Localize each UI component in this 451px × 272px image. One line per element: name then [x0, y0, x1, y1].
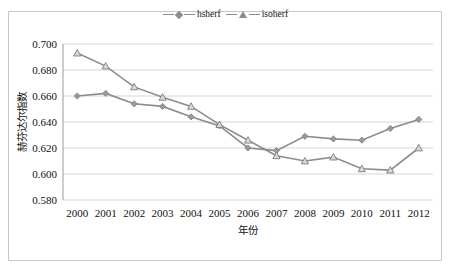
- x-axis-tick-label: 2006: [237, 207, 260, 219]
- x-axis-title: 年份: [238, 224, 259, 236]
- x-axis-tick-labels: 2000200120022003200420052006200720082009…: [66, 207, 430, 219]
- x-axis-tick-label: 2012: [408, 207, 430, 219]
- data-point-hsherf[interactable]: [330, 136, 336, 142]
- y-axis-tick-label: 0.580: [32, 194, 57, 206]
- x-axis-tick-label: 2011: [380, 207, 402, 219]
- x-axis-tick-label: 2009: [322, 207, 345, 219]
- plot-area: 0.7000.6800.6600.6400.6200.6000.580 2000…: [0, 0, 451, 272]
- x-axis-tick-label: 2003: [152, 207, 175, 219]
- y-axis-title: 赫芬达尔指数: [16, 91, 28, 152]
- data-point-isoherf[interactable]: [74, 50, 81, 56]
- data-point-hsherf[interactable]: [74, 93, 80, 99]
- y-axis-tick-label: 0.700: [32, 38, 57, 50]
- data-point-hsherf[interactable]: [302, 133, 308, 139]
- series-layer: [74, 50, 423, 173]
- x-axis-tick-label: 2002: [123, 207, 145, 219]
- y-axis-tick-label: 0.600: [32, 168, 57, 180]
- y-axis-tick-label: 0.680: [32, 64, 57, 76]
- x-axis-tick-label: 2001: [95, 207, 117, 219]
- data-point-isoherf[interactable]: [273, 152, 280, 158]
- series-line-isoherf: [77, 53, 419, 170]
- data-point-hsherf[interactable]: [188, 114, 194, 120]
- x-axis-tick-label: 2008: [294, 207, 317, 219]
- chart-svg: 0.7000.6800.6600.6400.6200.6000.580 2000…: [0, 0, 451, 272]
- x-axis-tick-label: 2000: [66, 207, 89, 219]
- y-axis-tick-label: 0.620: [32, 142, 57, 154]
- data-point-hsherf[interactable]: [387, 125, 393, 131]
- x-axis-tick-label: 2004: [180, 207, 203, 219]
- y-axis-tick-labels: 0.7000.6800.6600.6400.6200.6000.580: [32, 38, 57, 206]
- data-point-hsherf[interactable]: [359, 137, 365, 143]
- data-point-isoherf[interactable]: [244, 137, 251, 143]
- x-axis-tick-label: 2010: [351, 207, 374, 219]
- y-axis-tick-label: 0.660: [32, 90, 57, 102]
- x-axis-tick-label: 2007: [265, 207, 288, 219]
- data-point-hsherf[interactable]: [131, 101, 137, 107]
- x-axis-tick-label: 2005: [209, 207, 232, 219]
- data-point-hsherf[interactable]: [160, 103, 166, 109]
- gridlines: [63, 44, 433, 200]
- y-axis-tick-label: 0.640: [32, 116, 57, 128]
